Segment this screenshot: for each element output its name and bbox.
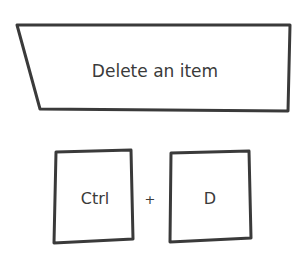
key-ctrl-label: Ctrl bbox=[81, 189, 109, 208]
plus-separator: + bbox=[145, 192, 156, 207]
diagram-canvas bbox=[0, 0, 302, 269]
banner-label: Delete an item bbox=[92, 61, 218, 81]
key-d-label: D bbox=[204, 189, 216, 208]
